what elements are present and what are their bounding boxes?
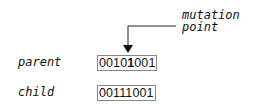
parent-bits-after: 001 xyxy=(134,56,155,70)
parent-bits-before: 0010 xyxy=(99,56,127,70)
parent-bitstring: 00101001 xyxy=(97,55,157,71)
child-label: child xyxy=(18,85,54,99)
annotation-line2: point xyxy=(182,20,218,34)
child-bitstring: 00111001 xyxy=(97,85,156,101)
parent-label: parent xyxy=(18,55,61,69)
